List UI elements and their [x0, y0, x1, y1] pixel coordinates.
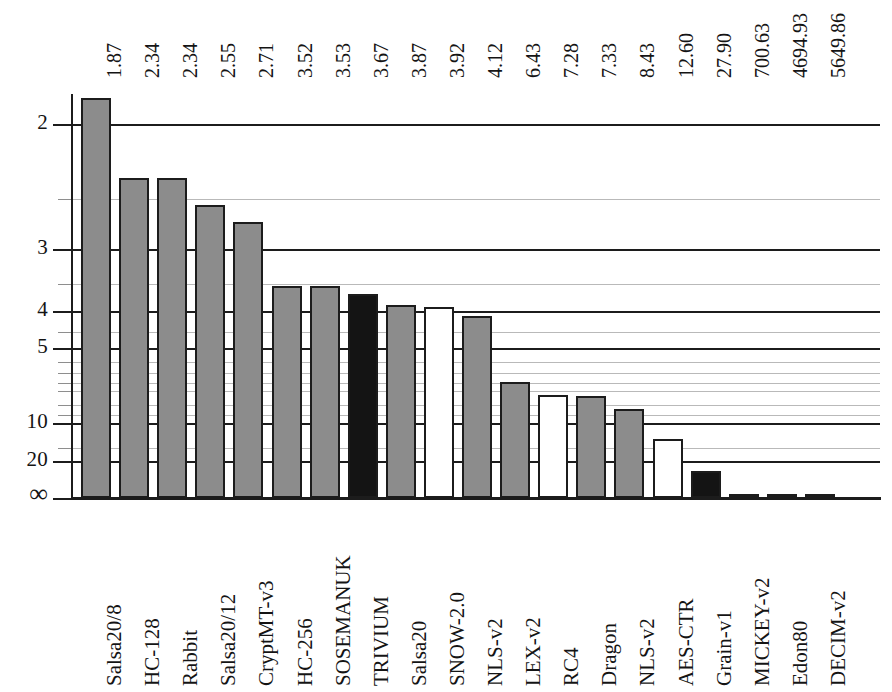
category-label: Rabbit — [180, 630, 200, 686]
y-axis-minor-tick — [58, 383, 71, 384]
chart-root: 1.872.342.342.552.713.523.533.673.873.92… — [0, 0, 892, 692]
category-label: NLS-v2 — [485, 618, 505, 686]
y-axis-minor-tick — [58, 284, 71, 285]
category-label: LEX-v2 — [523, 617, 543, 686]
bar-value-label: 3.67 — [371, 43, 391, 78]
bar — [233, 222, 263, 498]
bar-value-label: 7.33 — [599, 43, 619, 78]
bar-value-label: 2.55 — [218, 43, 238, 78]
bar — [157, 178, 187, 498]
y-axis-tick — [53, 461, 71, 463]
bar — [119, 178, 149, 498]
y-axis-label: 3 — [0, 237, 48, 258]
category-label: HC-128 — [142, 618, 162, 686]
y-axis-minor-tick — [58, 332, 71, 333]
y-axis-label: 4 — [0, 299, 48, 320]
category-label: NLS-v2 — [637, 618, 657, 686]
bar-value-label: 27.90 — [714, 33, 734, 78]
bar-value-label: 3.53 — [333, 43, 353, 78]
y-axis-tick — [53, 311, 71, 313]
bar — [576, 396, 606, 498]
category-label: CryptMT-v3 — [256, 581, 276, 686]
category-label: Dragon — [599, 623, 619, 686]
category-label: SOSEMANUK — [333, 555, 353, 686]
y-axis-line — [71, 94, 73, 499]
y-axis-label: ∞ — [0, 483, 48, 504]
bar-value-label: 5649.86 — [828, 13, 848, 78]
category-label: Salsa20/12 — [218, 594, 238, 686]
bar — [538, 395, 568, 498]
bar-value-label: 2.34 — [180, 43, 200, 78]
y-axis-label: 20 — [0, 449, 48, 470]
y-axis-tick — [53, 124, 71, 126]
category-label: MICKEY-v2 — [752, 578, 772, 687]
bar-value-label: 2.71 — [256, 43, 276, 78]
bar-value-label: 700.63 — [752, 23, 772, 78]
plot-area — [72, 95, 880, 498]
y-axis-tick — [53, 249, 71, 251]
bar-value-label: 4694.93 — [790, 13, 810, 78]
y-axis-minor-tick — [58, 362, 71, 363]
bar — [386, 305, 416, 498]
bar — [614, 409, 644, 498]
bar — [195, 205, 225, 498]
bar — [424, 307, 454, 498]
bar — [310, 286, 340, 498]
y-axis-tick — [53, 348, 71, 350]
category-label: TRIVIUM — [371, 596, 391, 686]
bar-value-label: 1.87 — [104, 43, 124, 78]
y-axis-minor-tick — [58, 391, 71, 392]
category-label: RC4 — [561, 647, 581, 686]
bar — [500, 382, 530, 498]
bar — [653, 439, 683, 498]
x-axis-line — [71, 497, 881, 500]
gridline-minor — [72, 284, 880, 285]
y-axis-tick — [53, 423, 71, 425]
bar — [691, 471, 721, 498]
category-label: Edon80 — [790, 621, 810, 686]
gridline-major — [72, 124, 880, 126]
bar — [272, 286, 302, 499]
bar — [81, 98, 111, 498]
bar-value-label: 3.92 — [447, 43, 467, 78]
gridline-major — [72, 249, 880, 251]
y-axis-minor-tick — [58, 415, 71, 416]
y-axis-minor-tick — [58, 199, 71, 200]
bar — [348, 294, 378, 498]
y-axis-minor-tick — [58, 405, 71, 406]
category-label: Salsa20/8 — [104, 604, 124, 686]
bar-value-label: 6.43 — [523, 43, 543, 78]
bar-value-label: 3.52 — [295, 43, 315, 78]
bar-value-label: 2.34 — [142, 43, 162, 78]
y-axis-minor-tick — [58, 373, 71, 374]
gridline-minor — [72, 199, 880, 200]
bar-value-label: 8.43 — [637, 43, 657, 78]
y-axis-tick — [53, 498, 71, 500]
category-label: HC-256 — [295, 618, 315, 686]
bar-value-label: 3.87 — [409, 43, 429, 78]
category-label: SNOW-2.0 — [447, 592, 467, 686]
y-axis-label: 5 — [0, 336, 48, 357]
gridline-major — [72, 311, 880, 313]
bar-value-label: 12.60 — [676, 33, 696, 78]
y-axis-label: 10 — [0, 411, 48, 432]
category-label: Grain-v1 — [714, 610, 734, 686]
y-axis-minor-tick — [58, 448, 71, 449]
category-label: Salsa20 — [409, 621, 429, 686]
category-label: AES-CTR — [676, 598, 696, 686]
bar-value-label: 7.28 — [561, 43, 581, 78]
y-axis-label: 2 — [0, 112, 48, 133]
bar-value-label: 4.12 — [485, 43, 505, 78]
bar — [462, 316, 492, 498]
category-label: DECIM-v2 — [828, 590, 848, 686]
